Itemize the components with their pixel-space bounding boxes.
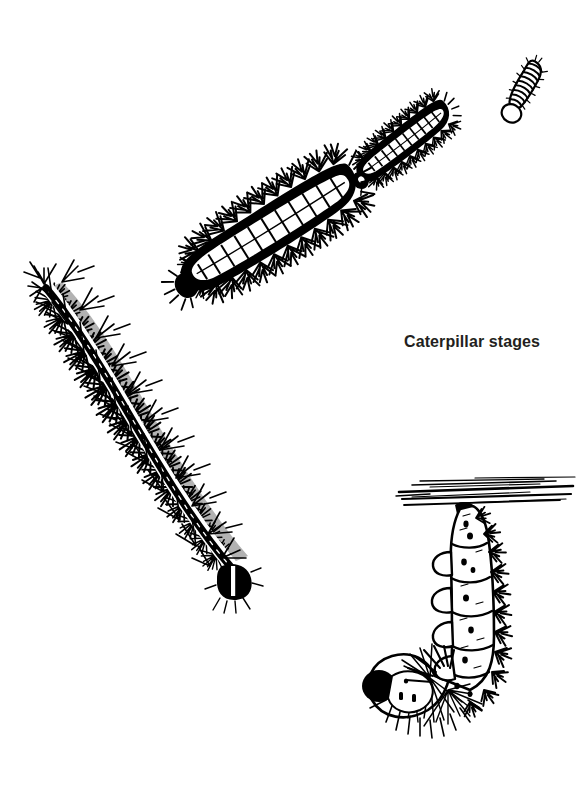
caterpillar-stages-artwork (0, 0, 584, 811)
page-title: Caterpillar stages (404, 333, 540, 351)
illustration-plate: Caterpillar stages (0, 0, 584, 811)
